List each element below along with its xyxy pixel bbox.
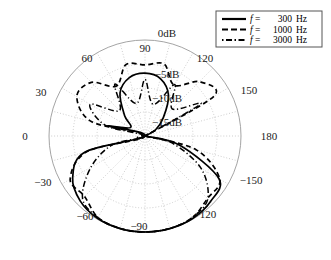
grid-spoke-30 xyxy=(62,88,145,136)
angle-label-30: 30 xyxy=(35,86,47,98)
grid-spoke--135 xyxy=(145,136,213,204)
angle-label-180: 180 xyxy=(261,130,278,142)
angle-label--30: −30 xyxy=(34,176,52,188)
polar-plot-svg: −90−60−300306090120150180−150−120 0dB−5d… xyxy=(0,0,331,260)
radial-label--5db: −5dB xyxy=(155,68,180,80)
legend: f = 300Hzf = 1000Hzf = 3000Hz xyxy=(216,11,322,47)
radial-label-0db: 0dB xyxy=(158,27,176,39)
grid-spoke--150 xyxy=(145,136,228,184)
angle-label--150: −150 xyxy=(240,174,263,186)
radial-label--15db: −15dB xyxy=(152,116,182,128)
angle-label-90: 90 xyxy=(140,42,152,54)
angle-label-150: 150 xyxy=(241,84,258,96)
angle-label--120: −120 xyxy=(194,208,217,220)
angle-label--90: −90 xyxy=(130,220,148,232)
angle-label-0: 0 xyxy=(22,130,28,142)
legend-label-3000hz: f = 3000Hz xyxy=(250,35,307,45)
grid-spoke--60 xyxy=(97,136,145,219)
polar-plot-figure: −90−60−300306090120150180−150−120 0dB−5d… xyxy=(0,0,331,260)
polar-curves xyxy=(70,63,220,232)
angle-label-60: 60 xyxy=(82,52,94,64)
angle-label--60: −60 xyxy=(76,210,94,222)
grid-spoke--105 xyxy=(145,136,170,229)
legend-label-300hz: f = 300Hz xyxy=(250,14,307,24)
radial-label--10db: −10dB xyxy=(152,92,182,104)
angle-label-120: 120 xyxy=(197,52,214,64)
legend-label-1000hz: f = 1000Hz xyxy=(250,25,307,35)
curve-1000hz xyxy=(70,63,220,232)
